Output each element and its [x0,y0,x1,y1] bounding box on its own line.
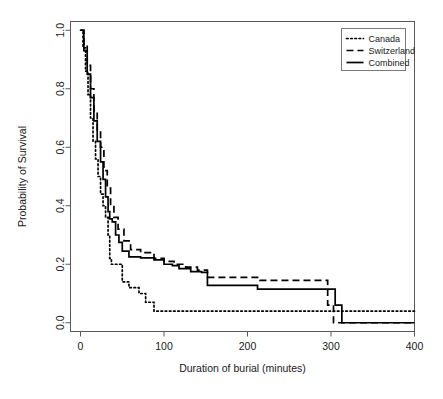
y-tick-label: 1.0 [55,23,67,38]
x-axis-title: Duration of burial (minutes) [179,362,306,374]
x-tick-label: 300 [322,340,340,352]
legend-label-switzerland: Switzerland [369,46,416,56]
y-tick-label: 0.6 [55,140,67,155]
x-tick-label: 0 [78,340,84,352]
series-curves [81,30,415,322]
x-tick-label: 200 [239,340,257,352]
y-tick-label: 0.0 [55,315,67,330]
x-axis-ticks: 0100200300400 [78,332,424,352]
y-tick-label: 0.4 [55,198,67,213]
series-line-switzerland [81,30,415,322]
chart-legend: CanadaSwitzerlandCombined [342,29,416,71]
x-tick-label: 100 [155,340,173,352]
y-axis-title: Probability of Survival [16,126,28,227]
y-axis-ticks: 0.00.20.40.60.81.0 [55,23,71,330]
legend-label-combined: Combined [369,58,410,68]
survival-plot: 0.00.20.40.60.81.0 0100200300400 Probabi… [0,0,443,399]
y-tick-label: 0.8 [55,81,67,96]
y-tick-label: 0.2 [55,257,67,272]
series-line-combined [81,30,415,322]
series-line-canada [81,30,415,311]
x-tick-label: 400 [406,340,424,352]
chart-canvas: 0.00.20.40.60.81.0 0100200300400 Probabi… [0,0,443,399]
legend-label-canada: Canada [369,34,401,44]
